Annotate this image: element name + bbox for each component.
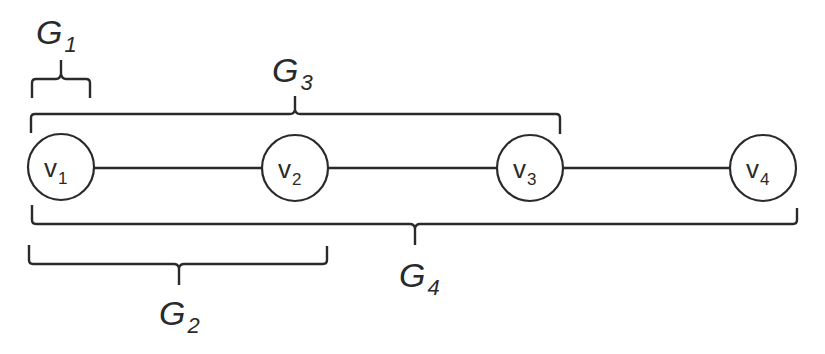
group-g2-bracket: G2 — [29, 245, 327, 338]
graph-diagram: v1 v2 v3 v4 G1 G3 G4 G2 — [0, 0, 825, 354]
svg-text:G4: G4 — [399, 256, 440, 300]
group-g3-bracket: G3 — [31, 51, 560, 134]
node-v2: v2 — [262, 135, 328, 201]
svg-text:G2: G2 — [159, 294, 200, 338]
node-v1: v1 — [28, 134, 94, 200]
node-v4: v4 — [730, 135, 796, 201]
group-g1-bracket: G1 — [32, 13, 90, 98]
svg-text:G1: G1 — [36, 13, 77, 57]
group-g4-bracket: G4 — [32, 205, 797, 300]
svg-text:G3: G3 — [272, 51, 313, 95]
node-v3: v3 — [497, 135, 563, 201]
